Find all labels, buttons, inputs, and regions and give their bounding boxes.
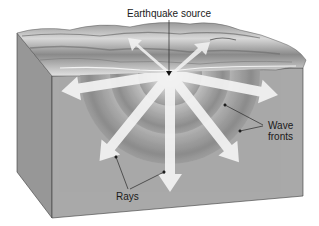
earthquake-source-label: Earthquake source xyxy=(127,8,211,19)
rays-label: Rays xyxy=(116,191,139,202)
terrain-surface xyxy=(17,23,306,76)
wave-fronts-label: Wave fronts xyxy=(268,120,293,142)
earthquake-diagram xyxy=(0,0,319,226)
wave-fronts-label-line2: fronts xyxy=(268,131,293,142)
wave-fronts-label-line1: Wave xyxy=(268,120,293,131)
